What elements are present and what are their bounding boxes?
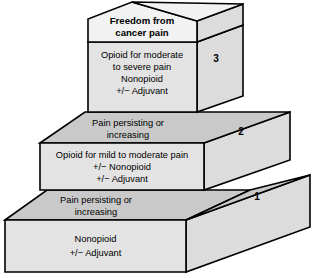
step-3-number: 3 [213,53,219,64]
transition-2-line-2: increasing [107,130,149,140]
ladder-diagram: 1 Nonopioid +/− Adjuvant Pain persisting… [0,0,325,278]
step-1-number: 1 [254,191,260,202]
step-1-front-panel [5,220,186,272]
step-1-line-2: +/− Adjuvant [70,248,122,258]
transition-2-line-1: Pain persisting or [92,118,164,128]
step-1-line-1: Nonopioid [75,234,117,244]
step-2-line-3: +/− Adjuvant [96,174,148,184]
step-3-line-2: to severe pain [113,62,171,72]
step-2-number: 2 [238,126,244,137]
transition-1-line-2: increasing [75,207,117,217]
step-3-line-1: Opioid for moderate [101,50,183,60]
goal-line-1: Freedom from [110,15,175,26]
step-2-group: 2 Opioid for mild to moderate pain +/− N… [40,112,290,190]
step-2-line-2: +/− Nonopioid [93,162,151,172]
goal-line-2: cancer pain [115,27,168,38]
step-3-line-4: +/− Adjuvant [116,86,168,96]
step-3-line-3: Nonopioid [121,74,163,84]
who-analgesic-ladder-figure: 1 Nonopioid +/− Adjuvant Pain persisting… [0,0,325,278]
step-2-line-1: Opioid for mild to moderate pain [56,150,188,160]
transition-1-line-1: Pain persisting or [60,195,132,205]
